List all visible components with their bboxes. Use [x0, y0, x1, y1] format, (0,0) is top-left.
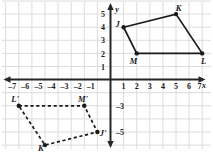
vertex-label-l: L — [200, 56, 206, 66]
vertex-label-k-prime: K' — [37, 143, 47, 152]
vertex-label-m-prime: M' — [77, 94, 89, 104]
x-tick--5: –5 — [33, 82, 42, 91]
x-tick-4: 4 — [161, 82, 165, 91]
y-tick--3: –3 — [115, 102, 124, 111]
y-axis-name: y — [114, 5, 119, 14]
x-tick-6: 6 — [187, 82, 191, 91]
vertex-j — [121, 25, 125, 29]
vertex-l — [200, 51, 204, 55]
x-tick--4: –4 — [47, 82, 56, 91]
x-tick--7: –7 — [7, 82, 16, 91]
vertex-k — [174, 12, 178, 16]
graph-canvas: x y –7 –6 –5 –4 –3 –2 –1 1 2 3 4 5 6 7 5… — [0, 0, 213, 151]
vertex-label-j-prime: J' — [99, 128, 107, 138]
y-tick-2: 2 — [101, 50, 105, 59]
y-tick-4: 4 — [101, 23, 105, 32]
vertex-label-l-prime: L' — [10, 94, 19, 104]
x-tick--2: –2 — [73, 82, 82, 91]
vertex-label-m: M — [129, 56, 138, 66]
y-tick-1: 1 — [101, 63, 105, 72]
vertex-m — [135, 51, 139, 55]
x-axis-name: x — [201, 81, 206, 90]
x-tick--1: –1 — [86, 82, 95, 91]
x-tick-5: 5 — [174, 82, 178, 91]
y-tick-5: 5 — [101, 10, 105, 19]
vertex-label-j: J — [114, 19, 120, 29]
x-tick-3: 3 — [148, 82, 152, 91]
x-tick-1: 1 — [122, 82, 126, 91]
vertex-l-prime — [17, 104, 21, 108]
x-tick--3: –3 — [60, 82, 69, 91]
y-tick-3: 3 — [101, 36, 105, 45]
x-tick--6: –6 — [20, 82, 29, 91]
vertex-m-prime — [82, 104, 86, 108]
coordinate-plane-figure: x y –7 –6 –5 –4 –3 –2 –1 1 2 3 4 5 6 7 5… — [0, 0, 213, 151]
y-tick--5: –5 — [115, 128, 124, 137]
x-tick-7: 7 — [198, 82, 202, 91]
x-tick-2: 2 — [135, 82, 139, 91]
